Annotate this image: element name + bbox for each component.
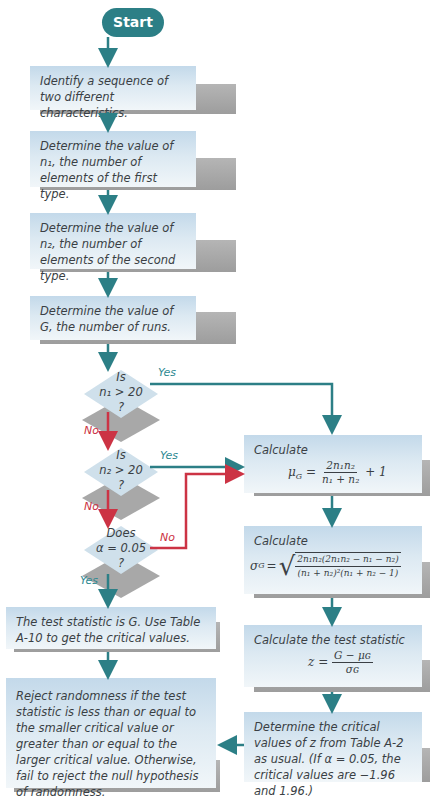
- d2-line1: Is: [86, 448, 156, 463]
- d3-yes-label: Yes: [80, 574, 98, 587]
- d3-line3: ?: [86, 556, 156, 571]
- d1-line3: ?: [86, 400, 156, 415]
- d3-line2: α = 0.05: [86, 541, 156, 556]
- d1-yes-label: Yes: [158, 366, 176, 379]
- d2-line3: ?: [86, 478, 156, 493]
- decision-n1-text: Is n₁ > 20 ?: [86, 370, 156, 415]
- d3-no-label: No: [160, 531, 175, 544]
- d2-line2: n₂ > 20: [86, 463, 156, 478]
- d3-line1: Does: [86, 526, 156, 541]
- d2-no-label: No: [84, 500, 99, 513]
- decision-diamonds: [0, 0, 437, 803]
- d2-yes-label: Yes: [160, 449, 178, 462]
- decision-n2-text: Is n₂ > 20 ?: [86, 448, 156, 493]
- decision-alpha-text: Does α = 0.05 ?: [86, 526, 156, 571]
- d1-line1: Is: [86, 370, 156, 385]
- d1-no-label: No: [84, 424, 99, 437]
- d1-line2: n₁ > 20: [86, 385, 156, 400]
